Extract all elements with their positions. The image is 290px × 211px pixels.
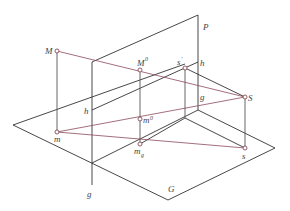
label-M: M <box>44 46 53 56</box>
ground-plane-outline <box>13 64 275 200</box>
label-s: s <box>242 151 246 161</box>
picture-plane-outline <box>92 15 198 185</box>
point-m0 <box>138 117 142 121</box>
point-M0 <box>138 68 142 72</box>
label-mg-sub: g <box>141 152 144 158</box>
horizon-line-h <box>92 62 198 110</box>
point-s-prime <box>183 66 187 70</box>
line-sp-S <box>185 68 245 97</box>
label-g-right: g <box>200 92 205 102</box>
label-g-bottom: g <box>87 189 92 199</box>
label-h-left: h <box>84 106 89 116</box>
label-m0-sup: 0 <box>150 115 153 121</box>
label-P: P <box>202 22 209 32</box>
label-h-right: h <box>200 58 205 68</box>
label-m: m <box>54 134 61 144</box>
label-S: S <box>248 93 253 103</box>
diagram-canvas: P G h h g g M M 0 m m 0 m g S s s ′ <box>0 0 290 211</box>
picture-plane-P <box>92 15 198 185</box>
ray-M-S <box>57 51 245 97</box>
point-M <box>55 49 59 53</box>
projection-diagram: P G h h g g M M 0 m m 0 m g S s s ′ <box>0 0 290 211</box>
label-M0: M <box>136 58 145 68</box>
point-s <box>243 146 247 150</box>
label-s-prime-sup: ′ <box>181 56 183 62</box>
label-mg: m <box>134 146 141 156</box>
label-m0: m <box>143 115 150 125</box>
label-M0-sup: 0 <box>145 56 148 62</box>
point-S <box>243 95 247 99</box>
ground-plane-G <box>13 64 275 200</box>
label-G: G <box>168 184 175 194</box>
